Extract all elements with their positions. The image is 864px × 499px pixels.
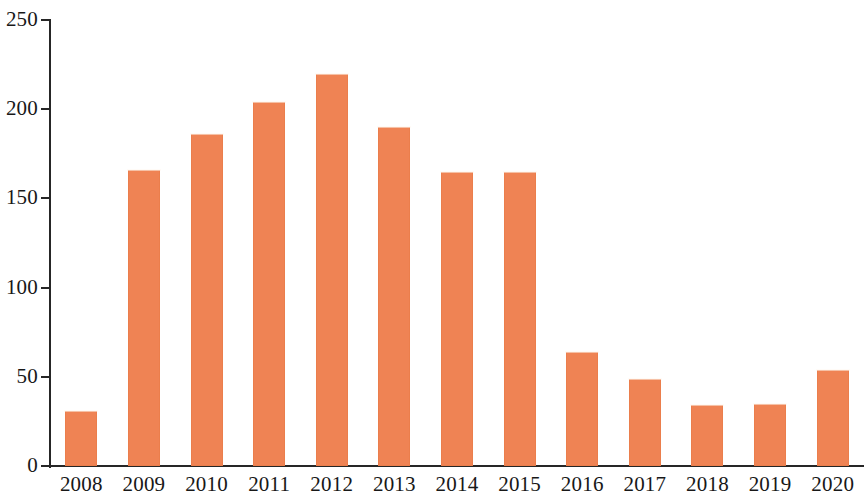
y-axis-tick — [41, 287, 50, 289]
x-axis-label-2013: 2013 — [359, 472, 429, 496]
y-axis-tick-label: 100 — [0, 277, 38, 298]
x-axis-label-2019: 2019 — [735, 472, 805, 496]
bar-2018 — [691, 405, 723, 466]
x-axis-label-2014: 2014 — [422, 472, 492, 496]
x-axis-label-2015: 2015 — [485, 472, 555, 496]
y-axis-tick — [41, 19, 50, 21]
bar-2012 — [316, 74, 348, 466]
bar-2015 — [504, 172, 536, 466]
x-axis-label-2011: 2011 — [234, 472, 304, 496]
bar-2011 — [253, 102, 285, 466]
bar-2008 — [65, 411, 97, 466]
y-axis-tick — [41, 376, 50, 378]
y-axis-tick-label: 50 — [0, 366, 38, 387]
x-axis-label-2009: 2009 — [109, 472, 179, 496]
bar-2014 — [441, 172, 473, 466]
x-axis-label-2020: 2020 — [798, 472, 864, 496]
x-axis-label-2012: 2012 — [297, 472, 367, 496]
x-axis-label-2017: 2017 — [610, 472, 680, 496]
y-axis-tick-label: 250 — [0, 9, 38, 30]
x-axis-label-2010: 2010 — [172, 472, 242, 496]
bar-2020 — [817, 370, 849, 466]
y-axis-tick — [41, 465, 50, 467]
bar-2009 — [128, 170, 160, 466]
bar-2019 — [754, 404, 786, 466]
bar-2016 — [566, 352, 598, 466]
y-axis-tick-label: 200 — [0, 98, 38, 119]
y-axis-tick-label: 0 — [0, 455, 38, 476]
x-axis-label-2018: 2018 — [672, 472, 742, 496]
x-axis-label-2008: 2008 — [46, 472, 116, 496]
bar-chart: 050100150200250 200820092010201120122013… — [0, 0, 864, 499]
plot-area — [50, 20, 864, 466]
y-axis-tick — [41, 108, 50, 110]
y-axis-tick — [41, 197, 50, 199]
y-axis-tick-label: 150 — [0, 187, 38, 208]
bar-2017 — [629, 379, 661, 466]
bar-2010 — [191, 134, 223, 466]
bar-2013 — [378, 127, 410, 466]
x-axis-label-2016: 2016 — [547, 472, 617, 496]
